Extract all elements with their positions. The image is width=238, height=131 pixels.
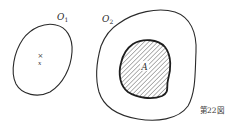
set-o1-label: O1: [57, 12, 68, 23]
point-x-label: x: [38, 59, 42, 66]
figure-22-diagram: O1 × x O2 A 第22図: [0, 0, 238, 131]
set-o2-label: O2: [102, 14, 113, 25]
set-a: A: [120, 40, 171, 98]
point-x: × x: [38, 52, 44, 66]
set-a-label: A: [141, 62, 148, 72]
figure-caption: 第22図: [200, 105, 224, 115]
